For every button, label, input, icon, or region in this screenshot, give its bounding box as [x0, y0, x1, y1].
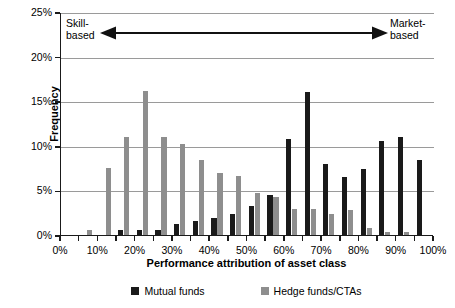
x-tick-mark [153, 236, 155, 241]
bar-mutual-funds [137, 230, 142, 235]
x-tick-mark [246, 236, 248, 241]
x-tick-label: 20% [115, 244, 155, 256]
gridline [61, 191, 434, 192]
bar-hedge-funds-ctas [161, 137, 166, 235]
bar-mutual-funds [398, 137, 403, 235]
x-tick-mark [283, 236, 285, 241]
x-tick-label: 30% [152, 244, 192, 256]
double-arrow-icon [100, 22, 388, 44]
bar-mutual-funds [267, 195, 272, 235]
bar-hedge-funds-ctas [180, 144, 185, 235]
x-axis-title: Performance attribution of asset class [60, 257, 433, 269]
legend-label: Hedge funds/CTAs [274, 285, 362, 297]
bar-hedge-funds-ctas [311, 209, 316, 235]
x-tick-label: 80% [338, 244, 378, 256]
bar-mutual-funds [193, 221, 198, 235]
x-tick-label: 0% [40, 244, 80, 256]
legend-item: Hedge funds/CTAs [261, 285, 362, 297]
y-tick-label: 10% [14, 141, 52, 152]
bar-hedge-funds-ctas [143, 91, 148, 235]
y-tick-label: 25% [14, 7, 52, 18]
gridline [61, 147, 434, 148]
annotation-market-based-line1: Market- [390, 17, 426, 29]
bar-hedge-funds-ctas [87, 230, 92, 235]
bar-mutual-funds [323, 164, 328, 235]
gridline [61, 58, 434, 59]
x-tick-mark [376, 236, 378, 241]
bar-mutual-funds [211, 218, 216, 235]
bar-mutual-funds [118, 230, 123, 235]
x-tick-mark [302, 236, 304, 241]
y-tick-label: 20% [14, 52, 52, 63]
x-tick-mark [97, 236, 99, 241]
x-tick-mark [264, 236, 266, 241]
legend-label: Mutual funds [144, 285, 204, 297]
bar-hedge-funds-ctas [217, 173, 222, 235]
annotation-skill-based-line2: based [66, 29, 95, 41]
bar-mutual-funds [361, 169, 366, 235]
y-tick-label: 5% [14, 185, 52, 196]
bar-hedge-funds-ctas [106, 168, 111, 235]
legend-swatch-mutual-funds [131, 287, 139, 295]
bar-hedge-funds-ctas [124, 137, 129, 235]
x-tick-mark [320, 236, 322, 241]
bar-mutual-funds [249, 206, 254, 235]
gridline [61, 13, 434, 14]
bar-hedge-funds-ctas [367, 228, 372, 235]
bar-hedge-funds-ctas [255, 193, 260, 235]
annotation-skill-based-line1: Skill- [66, 17, 95, 29]
chart-figure: Frequency 0%5%10%15%20%25% 0%10%20%30%40… [0, 0, 455, 308]
x-tick-label: 90% [376, 244, 416, 256]
bar-hedge-funds-ctas [292, 209, 297, 235]
bar-mutual-funds [305, 92, 310, 235]
y-tick-label: 15% [14, 96, 52, 107]
annotation-market-based: Market- based [390, 17, 426, 41]
x-tick-label: 50% [227, 244, 267, 256]
bar-mutual-funds [174, 224, 179, 235]
x-tick-mark [115, 236, 117, 241]
x-tick-label: 60% [264, 244, 304, 256]
bar-hedge-funds-ctas [385, 232, 390, 235]
bar-hedge-funds-ctas [236, 176, 241, 235]
x-tick-mark [59, 236, 61, 241]
annotation-skill-based: Skill- based [66, 17, 95, 41]
x-tick-mark [171, 236, 173, 241]
y-tick-label: 0% [14, 230, 52, 241]
bar-mutual-funds [417, 160, 422, 235]
bar-mutual-funds [155, 230, 160, 235]
bar-hedge-funds-ctas [273, 197, 278, 235]
x-tick-mark [339, 236, 341, 241]
bar-mutual-funds [342, 177, 347, 235]
y-axis-title: Frequency [48, 54, 60, 174]
x-tick-mark [134, 236, 136, 241]
bar-hedge-funds-ctas [348, 210, 353, 235]
bar-hedge-funds-ctas [404, 232, 409, 235]
legend-swatch-hedge-funds [261, 287, 269, 295]
plot-area [60, 13, 433, 236]
x-tick-mark [358, 236, 360, 241]
x-tick-label: 100% [413, 244, 453, 256]
legend-item: Mutual funds [131, 285, 204, 297]
x-tick-mark [190, 236, 192, 241]
chart-legend: Mutual fundsHedge funds/CTAs [60, 281, 433, 301]
bar-mutual-funds [379, 141, 384, 235]
bar-hedge-funds-ctas [329, 214, 334, 235]
x-tick-label: 10% [77, 244, 117, 256]
bar-hedge-funds-ctas [199, 160, 204, 235]
annotation-market-based-line2: based [390, 29, 426, 41]
x-tick-mark [395, 236, 397, 241]
x-tick-mark [432, 236, 434, 241]
gridline [61, 102, 434, 103]
x-tick-label: 70% [301, 244, 341, 256]
x-tick-mark [414, 236, 416, 241]
bar-mutual-funds [230, 214, 235, 235]
x-tick-label: 40% [189, 244, 229, 256]
x-tick-mark [208, 236, 210, 241]
x-tick-mark [78, 236, 80, 241]
bar-mutual-funds [286, 139, 291, 235]
x-tick-mark [227, 236, 229, 241]
